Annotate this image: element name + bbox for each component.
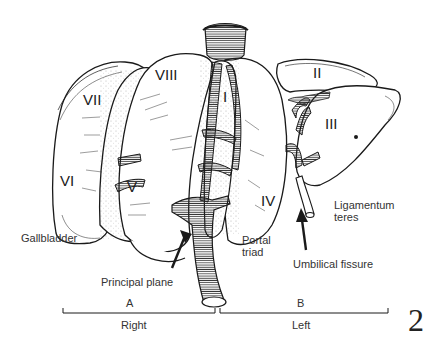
bracket-left-letter: B: [297, 297, 304, 309]
figure-number: 2: [408, 302, 424, 339]
bracket-right-label: Right: [121, 319, 147, 331]
label-principal-plane: Principal plane: [101, 276, 173, 288]
segment-label-vi: VI: [60, 172, 74, 189]
segment-label-viii: VIII: [155, 66, 178, 83]
inferior-vena-cava: [203, 24, 248, 61]
segment-label-v: V: [127, 178, 137, 195]
label-ligamentum-teres-line1: Ligamentum: [334, 199, 395, 211]
label-ligamentum-teres-line2: teres: [334, 211, 358, 223]
bracket-right-letter: A: [126, 297, 133, 309]
label-gallbladder: Gallbladder: [21, 232, 77, 244]
segment-label-iii: III: [325, 115, 338, 132]
bracket-left-label: Left: [292, 319, 310, 331]
segment-label-i: I: [223, 88, 227, 105]
liver-segment-diagram: VIII VII I II III VI V IV Gallbladder Pr…: [0, 0, 436, 347]
segment-label-vii: VII: [83, 91, 101, 108]
segment-label-ii: II: [313, 64, 321, 81]
bracket-right: [63, 308, 215, 313]
label-portal-triad-line1: Portal: [242, 234, 271, 246]
label-portal-triad-line2: triad: [242, 246, 263, 258]
label-umbilical-fissure: Umbilical fissure: [293, 258, 373, 270]
segment-label-iv: IV: [261, 192, 275, 209]
